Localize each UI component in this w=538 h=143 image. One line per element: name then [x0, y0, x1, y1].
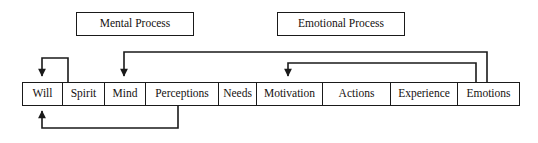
stage-label-actions: Actions [339, 88, 375, 100]
stage-cell-perceptions: Perceptions [146, 83, 219, 105]
stage-cell-will: Will [23, 83, 63, 105]
stage-label-mind: Mind [113, 88, 138, 100]
stage-cell-experience: Experience [391, 83, 458, 105]
process-flow-diagram: Mental Process Emotional Process Will Sp… [0, 0, 538, 143]
stage-cell-motivation: Motivation [257, 83, 323, 105]
stage-label-motivation: Motivation [264, 88, 315, 100]
process-label-mental: Mental Process [76, 12, 194, 36]
process-label-emotional-text: Emotional Process [298, 18, 384, 30]
spirit-to-will-feedback-arrow [42, 58, 68, 82]
perceptions-to-will-feedback-arrow [42, 106, 178, 128]
stage-label-will: Will [33, 88, 53, 100]
stage-cell-actions: Actions [323, 83, 391, 105]
process-label-mental-text: Mental Process [100, 18, 171, 30]
stage-label-emotions: Emotions [466, 88, 510, 100]
stage-label-perceptions: Perceptions [155, 88, 209, 100]
stage-cell-spirit: Spirit [63, 83, 105, 105]
stage-cell-mind: Mind [105, 83, 146, 105]
emotions-to-mind-feedback-arrow [124, 52, 487, 82]
process-label-emotional: Emotional Process [277, 12, 405, 36]
stage-cell-needs: Needs [219, 83, 257, 105]
stage-cell-emotions: Emotions [458, 83, 519, 105]
stage-label-spirit: Spirit [71, 88, 97, 100]
stage-label-needs: Needs [223, 88, 252, 100]
stage-sequence-row: Will Spirit Mind Perceptions Needs Motiv… [22, 82, 520, 106]
emotions-to-motivation-feedback-arrow [288, 63, 476, 82]
stage-label-experience: Experience [398, 88, 450, 100]
